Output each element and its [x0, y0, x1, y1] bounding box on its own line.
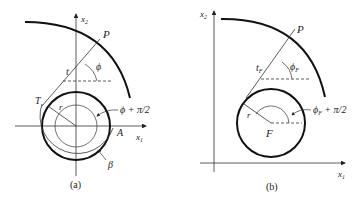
beta-label: β: [107, 159, 113, 170]
angle-label: ϕF + π/2: [313, 104, 346, 116]
angle-arc: [256, 106, 289, 123]
t-label: t: [66, 66, 69, 77]
r-label: r: [247, 110, 251, 120]
caption-b: (b): [266, 181, 278, 193]
angle-label: ϕ + π/2: [120, 104, 150, 115]
beta-leader: [98, 150, 106, 160]
point-P-label: P: [102, 28, 110, 40]
point-T-label: T: [35, 95, 42, 106]
beta-ring: [40, 104, 113, 153]
panel-b: x2 P ϕF tF r F ϕF + π/2 x1 (b): [199, 9, 346, 193]
angle-leader: [292, 110, 311, 115]
x2-label: x2: [199, 9, 207, 20]
tF-label: tF: [256, 62, 263, 74]
phiF-label: ϕF: [290, 61, 299, 73]
x1-label: x1: [337, 169, 345, 180]
trajectory-arc: [25, 22, 130, 98]
trajectory-arc: [221, 19, 325, 97]
x1-label: x1: [135, 132, 143, 143]
phi-label: ϕ: [96, 61, 101, 72]
caption-a: (a): [70, 179, 81, 191]
point-F-label: F: [265, 127, 273, 139]
point-P-label: P: [296, 23, 304, 35]
diagram-canvas: x2 P ϕ t T r ϕ + π/2 A x1 β (a): [0, 0, 354, 204]
x2-label: x2: [80, 14, 88, 25]
r-label: r: [59, 102, 63, 112]
panel-a: x2 P ϕ t T r ϕ + π/2 A x1 β (a): [15, 14, 150, 191]
point-A-label: A: [116, 127, 124, 138]
tangent-line: [246, 29, 295, 98]
